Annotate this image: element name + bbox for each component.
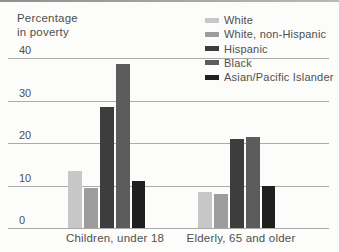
y-tick-0: 0: [19, 214, 39, 226]
top-rule: [0, 0, 339, 2]
legend-item-asian-pacific-islander: Asian/Pacific Islander: [205, 70, 335, 84]
legend-label: Asian/Pacific Islander: [224, 71, 334, 83]
legend-item-hispanic: Hispanic: [205, 42, 335, 56]
hispanic-swatch-icon: [205, 46, 219, 51]
bar-elderly-white-non-hispanic: [214, 194, 228, 228]
bar-elderly-hispanic: [230, 139, 244, 228]
bar-elderly-white: [198, 192, 212, 228]
gridline-0: [8, 228, 329, 229]
bar-children-asian-pacific-islander: [132, 181, 146, 228]
bar-elderly-asian-pacific-islander: [262, 186, 276, 229]
poverty-bar-chart: Percentage in poverty 403020100 White Wh…: [0, 0, 339, 252]
bar-children-white: [68, 171, 82, 228]
legend-item-white: White: [205, 13, 335, 27]
gridline-30: [8, 101, 329, 102]
white-non-hispanic-swatch-icon: [205, 32, 219, 37]
legend-label: Black: [224, 57, 252, 69]
y-tick-10: 10: [19, 172, 39, 184]
bar-children-white-non-hispanic: [84, 188, 98, 228]
y-tick-40: 40: [19, 44, 39, 56]
legend-label: White: [224, 14, 253, 26]
y-tick-20: 20: [19, 129, 39, 141]
bar-children-black: [116, 64, 130, 228]
y-axis-title-line2: in poverty: [17, 25, 78, 39]
bar-elderly-black: [246, 137, 260, 228]
bar-children-hispanic: [100, 107, 114, 228]
y-axis-title: Percentage in poverty: [17, 11, 78, 39]
legend-label: Hispanic: [224, 43, 268, 55]
y-tick-30: 30: [19, 87, 39, 99]
black-swatch-icon: [205, 60, 219, 65]
y-axis-title-line1: Percentage: [17, 11, 78, 25]
gridline-10: [8, 186, 329, 187]
legend-item-black: Black: [205, 56, 335, 70]
legend-label: White, non-Hispanic: [224, 28, 326, 40]
gridline-20: [8, 143, 329, 144]
x-category-elderly: Elderly, 65 and older: [166, 232, 316, 245]
asian-pacific-islander-swatch-icon: [205, 75, 219, 80]
white-swatch-icon: [205, 18, 219, 23]
legend-item-white-non-hispanic: White, non-Hispanic: [205, 27, 335, 41]
